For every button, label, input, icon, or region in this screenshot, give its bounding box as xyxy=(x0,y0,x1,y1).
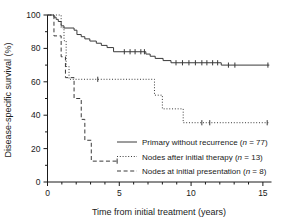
x-tick-label: 15 xyxy=(258,188,268,198)
y-tick-label: 20 xyxy=(31,144,41,154)
x-tick-label: 5 xyxy=(117,188,122,198)
y-tick-label: 40 xyxy=(31,110,41,120)
y-tick-label: 100 xyxy=(26,10,40,20)
legend-label: Nodes at initial presentation (n = 8) xyxy=(142,167,267,176)
y-tick-label: 60 xyxy=(31,77,41,87)
y-tick-label: 0 xyxy=(36,177,41,187)
legend-label: Nodes after initial therapy (n = 13) xyxy=(142,153,263,162)
plot-background xyxy=(0,0,288,221)
y-axis-title: Disease-specific survival (%) xyxy=(3,42,13,157)
legend-label: Primary without recurrence (n = 77) xyxy=(142,138,268,147)
survival-chart-figure: 051015020406080100 Primary without recur… xyxy=(0,0,288,221)
x-axis-title: Time from initial treatment (years) xyxy=(92,207,226,217)
x-tick-label: 0 xyxy=(45,188,50,198)
x-tick-label: 10 xyxy=(186,188,196,198)
y-tick-label: 80 xyxy=(31,43,41,53)
kaplan-meier-plot: 051015020406080100 Primary without recur… xyxy=(0,0,288,221)
